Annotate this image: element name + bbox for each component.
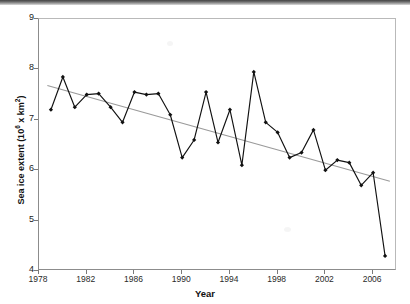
x-tick-mark [372, 270, 373, 274]
x-tick-mark [229, 270, 230, 274]
y-tick-mark [34, 18, 38, 19]
x-tick-mark [38, 270, 39, 274]
plot-svg [39, 19, 397, 271]
scan-artifact [284, 227, 291, 232]
x-tick-label: 1990 [161, 274, 201, 284]
y-tick-label: 5 [18, 214, 34, 224]
x-tick-label: 2002 [304, 274, 344, 284]
x-tick-label: 1986 [113, 274, 153, 284]
x-tick-label: 1982 [66, 274, 106, 284]
x-axis-title: Year [0, 288, 410, 299]
y-axis-title-exponent: 6 [14, 125, 21, 129]
x-tick-label: 2006 [352, 274, 392, 284]
sea-ice-extent-line-chart: Sea ice extent (106 x km2) Year 456789 1… [0, 0, 410, 304]
y-tick-mark [34, 169, 38, 170]
x-tick-mark [277, 270, 278, 274]
data-point-markers [49, 70, 387, 258]
y-tick-mark [34, 119, 38, 120]
y-axis-title-exponent-2: 2 [14, 99, 21, 103]
x-tick-label: 1994 [209, 274, 249, 284]
y-axis-title-close: ) [16, 96, 26, 99]
y-tick-mark [34, 220, 38, 221]
y-tick-label: 8 [18, 62, 34, 72]
data-line-series [51, 72, 385, 256]
y-tick-label: 6 [18, 163, 34, 173]
scan-artifact [167, 41, 173, 46]
x-tick-mark [86, 270, 87, 274]
x-tick-label: 1978 [18, 274, 58, 284]
x-tick-mark [133, 270, 134, 274]
x-tick-mark [324, 270, 325, 274]
y-tick-mark [34, 68, 38, 69]
y-tick-label: 7 [18, 113, 34, 123]
x-tick-label: 1998 [257, 274, 297, 284]
y-tick-label: 4 [18, 264, 34, 274]
trend-line-series [47, 86, 389, 182]
plot-area [38, 18, 396, 270]
y-tick-label: 9 [18, 12, 34, 22]
x-tick-mark [181, 270, 182, 274]
